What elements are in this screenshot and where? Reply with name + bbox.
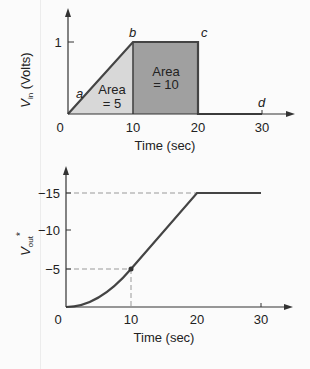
- y-tick-label: −10: [38, 223, 60, 238]
- area-5-value: = 5: [103, 96, 121, 111]
- y-tick-label: 1: [54, 35, 61, 50]
- x-tick-label: 30: [254, 312, 268, 327]
- top-chart: 1 0 10 20 30 Time (sec) Vin (Volts) a b …: [18, 8, 295, 153]
- point-label-a: a: [76, 86, 83, 101]
- x-tick-label: 0: [54, 312, 61, 327]
- x-tick-label: 20: [191, 120, 205, 135]
- y-axis-label: Vout*: [15, 232, 35, 256]
- y-axis-label: Vin (Volts): [18, 52, 35, 107]
- x-axis-arrow-icon: [286, 111, 295, 117]
- area-10-value: = 10: [153, 77, 179, 92]
- x-tick-label: 20: [190, 312, 204, 327]
- area-5-label: Area: [98, 82, 126, 97]
- marker-point: [129, 267, 134, 272]
- bottom-chart: −15 −10 −5 0 10 20 30 Time (sec) Vout*: [15, 166, 293, 345]
- x-tick-label: 10: [124, 312, 138, 327]
- x-axis-label: Time (sec): [135, 138, 196, 153]
- x-tick-label: 10: [126, 120, 140, 135]
- y-tick-label: −15: [38, 186, 60, 201]
- point-label-d: d: [258, 95, 266, 110]
- x-tick-label: 30: [255, 120, 269, 135]
- y-axis-arrow-icon: [63, 166, 69, 175]
- vout-curve: [66, 193, 261, 307]
- y-axis-arrow-icon: [65, 8, 71, 17]
- y-tick-label: −5: [45, 262, 60, 277]
- point-label-b: b: [129, 25, 136, 40]
- x-tick-label: 0: [56, 120, 63, 135]
- figure: 1 0 10 20 30 Time (sec) Vin (Volts) a b …: [0, 0, 310, 369]
- x-axis-arrow-icon: [284, 304, 293, 310]
- x-axis-label: Time (sec): [134, 330, 195, 345]
- point-label-c: c: [201, 25, 208, 40]
